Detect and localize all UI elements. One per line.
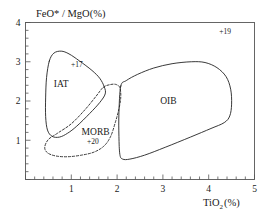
y-tick-label: 4 [16,18,21,28]
x-tick-label: 4 [206,184,211,194]
x-axis-label-base: TiO [203,197,220,208]
x-tick-label: 2 [115,184,120,194]
svg-text:TiO2(%): TiO2(%) [203,197,240,211]
annotation-plus19: +19 [219,27,231,36]
field-label-iat: IAT [54,79,69,89]
x-axis-label-unit: (%) [224,197,240,209]
x-tick-label: 5 [252,184,257,194]
y-tick-label: 3 [16,57,21,67]
x-axis-label: TiO2(%) [203,197,240,211]
x-tick-label: 1 [69,184,74,194]
chart-figure: 123451234 IATMORBOIB +17+20+19 FeO* / Mg… [0,0,273,219]
field-label-morb: MORB [82,127,110,137]
plot-frame [26,23,255,180]
discrimination-diagram-svg: 123451234 IATMORBOIB +17+20+19 FeO* / Mg… [0,0,273,219]
annotation-plus20: +20 [87,137,99,146]
axis-ticks [26,23,255,180]
field-labels: IATMORBOIB [54,79,177,137]
field-outline-oib [119,62,232,160]
y-axis-label: FeO* / MgO(%) [36,8,106,20]
field-label-oib: OIB [160,96,176,106]
annotation-plus17: +17 [71,60,83,69]
x-tick-label: 3 [161,184,166,194]
x-axis-label-subscript: 2 [220,203,224,211]
y-tick-label: 2 [16,96,21,106]
axis-tick-labels: 123451234 [16,18,257,194]
y-tick-label: 1 [16,136,21,146]
